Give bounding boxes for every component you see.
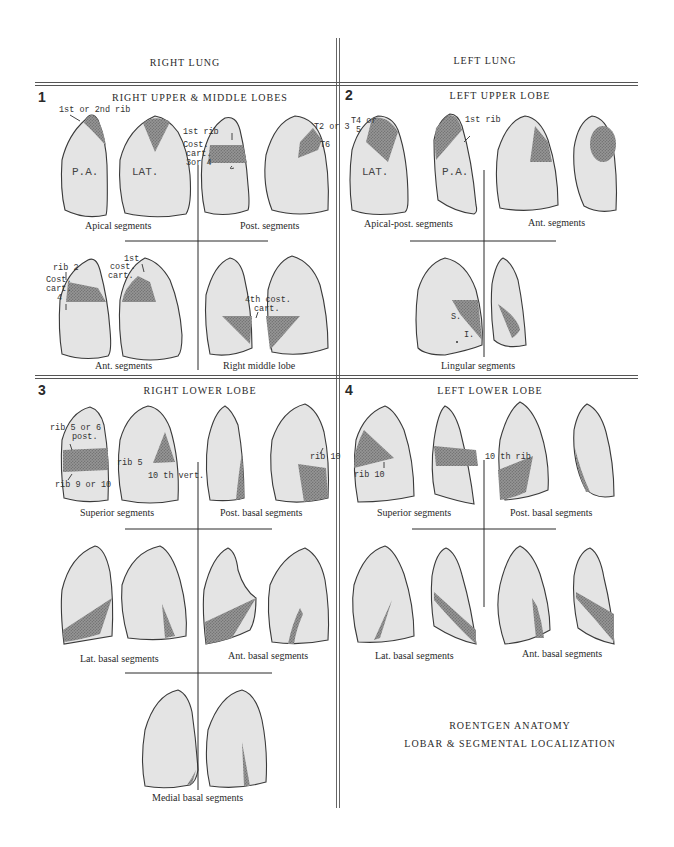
caption-ant-basal-segments-left: Ant. basal segments [522, 648, 602, 659]
label-pa-2: P.A. [442, 166, 468, 178]
caption-lat-basal-segments-left: Lat. basal segments [375, 650, 454, 661]
lung-2-lingular-lat [491, 258, 526, 347]
lung-3-medialbasal-pa [143, 690, 199, 788]
label-1st-rib: 1st rib [183, 128, 219, 137]
label-rib5: rib 5 [117, 459, 143, 468]
lung-4-latbasal-pa [353, 546, 414, 642]
caption-post-segments: Post. segments [240, 220, 299, 231]
lung-4-postbasal-pa [498, 402, 548, 500]
lung-3-latbasal-pa [61, 546, 112, 644]
caption-post-basal-segments-left: Post. basal segments [510, 507, 593, 518]
caption-apical-segments: Apical segments [85, 220, 151, 231]
label-lat: LAT. [132, 166, 158, 178]
label-lat-2: LAT. [362, 166, 388, 178]
label-10th-vert: 10 th vert. [148, 472, 204, 481]
caption-superior-segments-left: Superior segments [377, 507, 451, 518]
label-1st-cost-cart-3: cart. [108, 272, 134, 281]
label-3or4: 3or 4 [186, 159, 212, 168]
lung-4-latbasal-lat [431, 548, 476, 644]
lung-2-anterior-pa [496, 116, 558, 210]
label-4th-cost-2: cart. [254, 305, 280, 314]
lung-3-medialbasal-lat [206, 690, 266, 787]
label-t6: T6 [320, 141, 330, 150]
label-s: S. [451, 313, 461, 322]
lung-4-antbasal-lat [574, 548, 615, 644]
lung-4-superior-pa [354, 406, 414, 502]
label-five: 5 [356, 126, 361, 135]
caption-lingular-segments: Lingular segments [441, 360, 515, 371]
label-t4-or: T4 or [351, 117, 377, 126]
lung-4-superior-lat [432, 406, 478, 504]
caption-apical-post-segments: Apical-post. segments [364, 218, 453, 229]
label-1st-rib-2: 1st rib [465, 116, 501, 125]
lung-3-antbasal-lat [268, 548, 328, 644]
label-1st-or-2nd-rib: 1st or 2nd rib [59, 106, 130, 115]
caption-ant-basal-segments-right: Ant. basal segments [228, 650, 308, 661]
caption-lat-basal-segments-right: Lat. basal segments [80, 653, 159, 664]
lung-1-middle-pa [206, 258, 253, 355]
label-t2-or-3: T2 or 3 [314, 123, 350, 132]
lung-3-latbasal-lat [122, 546, 187, 640]
caption-ant-segments: Ant. segments [95, 360, 152, 371]
label-pa: P.A. [72, 166, 98, 178]
lung-4-antbasal-pa [498, 546, 550, 644]
caption-right-middle-lobe: Right middle lobe [223, 360, 295, 371]
lung-3-superior-lat [118, 406, 178, 503]
label-rib10-left: rib 10 [354, 471, 385, 480]
lung-3-postbasal-pa [206, 406, 244, 501]
label-rib2: rib 2 [53, 264, 79, 273]
caption-medial-basal-segments: Medial basal segments [152, 792, 243, 803]
footer-title: ROENTGEN ANATOMY [390, 720, 630, 731]
label-rib9or10: rib 9 or 10 [55, 481, 111, 490]
lung-2-lingular-pa [416, 258, 482, 355]
caption-ant-segments-left: Ant. segments [528, 217, 585, 228]
caption-superior-segments-right: Superior segments [80, 507, 154, 518]
label-rib10-right: rib 10 [310, 453, 341, 462]
label-10th-rib: 10 th rib [485, 453, 531, 462]
label-four: 4 [57, 294, 62, 303]
label-i: I. [464, 331, 474, 340]
caption-post-basal-segments-right: Post. basal segments [220, 507, 303, 518]
lung-4-postbasal-lat [574, 404, 614, 497]
footer-subtitle: LOBAR & SEGMENTAL LOCALIZATION [370, 738, 650, 749]
label-post: post. [72, 433, 98, 442]
lung-3-antbasal-pa [203, 548, 256, 644]
lung-2-apical-pa [434, 114, 477, 214]
lung-2-anterior-lat [574, 116, 617, 211]
